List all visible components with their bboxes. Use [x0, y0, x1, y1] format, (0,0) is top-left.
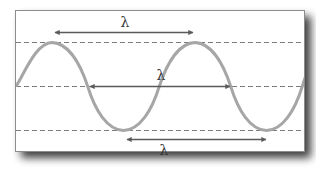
middle-lambda-label: λ [157, 67, 166, 83]
bottom-lambda-label: λ [160, 142, 169, 158]
top-lambda-label: λ [121, 14, 130, 30]
wavelength-diagram: λ λ λ [0, 0, 316, 171]
